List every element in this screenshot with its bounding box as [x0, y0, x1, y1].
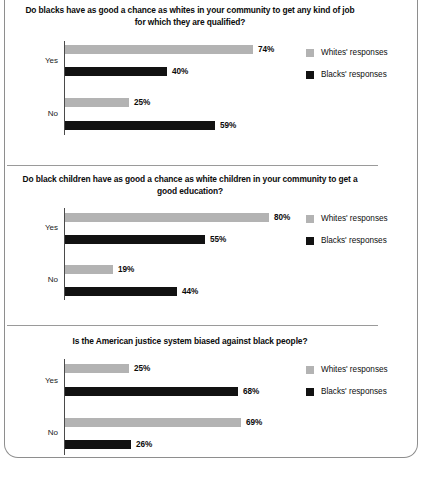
bar-value-no-whites-2: 19% — [118, 265, 134, 274]
section-divider-1 — [7, 165, 378, 166]
chart-section-1: Do blacks have as good a chance as white… — [0, 0, 428, 160]
legend-swatch-blacks-icon — [306, 388, 314, 396]
category-label-no-3: No — [18, 428, 58, 437]
bar-value-yes-blacks-2: 55% — [210, 235, 226, 244]
bar-yes-whites-2[interactable] — [65, 213, 269, 222]
category-label-yes-1: Yes — [18, 56, 58, 65]
legend-item-whites-2[interactable]: Whites' responses — [306, 214, 388, 223]
legend-2: Whites' responses Blacks' responses — [306, 214, 418, 254]
bar-value-no-whites-3: 69% — [246, 418, 262, 427]
legend-item-whites-1[interactable]: Whites' responses — [306, 48, 388, 57]
bar-value-no-blacks-1: 59% — [220, 121, 236, 130]
bar-yes-blacks-3[interactable] — [65, 387, 238, 396]
legend-item-blacks-1[interactable]: Blacks' responses — [306, 70, 387, 79]
plot-area-3: 25% 68% 69% 26% — [64, 359, 264, 455]
bar-value-yes-blacks-3: 68% — [243, 387, 259, 396]
legend-swatch-whites-icon — [306, 366, 314, 374]
bar-no-whites-3[interactable] — [65, 418, 241, 427]
legend-swatch-blacks-icon — [306, 71, 314, 79]
bar-yes-blacks-2[interactable] — [65, 235, 205, 244]
legend-label-whites: Whites' responses — [321, 48, 388, 57]
bar-no-blacks-1[interactable] — [65, 121, 215, 130]
category-label-yes-2: Yes — [18, 223, 58, 232]
legend-label-whites: Whites' responses — [321, 214, 388, 223]
chart-title-2: Do black children have as good a chance … — [20, 174, 360, 197]
category-label-yes-3: Yes — [18, 376, 58, 385]
legend-swatch-whites-icon — [306, 215, 314, 223]
chart-section-2: Do black children have as good a chance … — [0, 160, 428, 320]
legend-item-whites-3[interactable]: Whites' responses — [306, 365, 388, 374]
chart-title-1: Do blacks have as good a chance as white… — [20, 5, 360, 28]
bar-value-no-whites-1: 25% — [134, 98, 150, 107]
bar-yes-whites-3[interactable] — [65, 364, 129, 373]
bar-value-yes-blacks-1: 40% — [172, 67, 188, 76]
chart-section-3: Is the American justice system biased ag… — [0, 320, 428, 478]
plot-area-1: 74% 40% 25% 59% — [64, 41, 264, 135]
legend-label-blacks: Blacks' responses — [321, 70, 387, 79]
bar-no-whites-2[interactable] — [65, 265, 113, 274]
category-label-no-1: No — [18, 109, 58, 118]
plot-area-2: 80% 55% 19% 44% — [64, 208, 274, 300]
legend-swatch-whites-icon — [306, 49, 314, 57]
bar-value-yes-whites-2: 80% — [274, 213, 290, 222]
legend-3: Whites' responses Blacks' responses — [306, 365, 418, 405]
legend-label-blacks: Blacks' responses — [321, 387, 387, 396]
bar-no-whites-1[interactable] — [65, 98, 129, 107]
bar-no-blacks-2[interactable] — [65, 287, 177, 296]
bar-value-no-blacks-2: 44% — [182, 287, 198, 296]
bar-yes-whites-1[interactable] — [65, 45, 253, 54]
legend-item-blacks-2[interactable]: Blacks' responses — [306, 236, 387, 245]
bar-value-yes-whites-3: 25% — [134, 364, 150, 373]
bar-value-no-blacks-3: 26% — [136, 440, 152, 449]
category-label-no-2: No — [18, 275, 58, 284]
bar-no-blacks-3[interactable] — [65, 440, 131, 449]
bar-yes-blacks-1[interactable] — [65, 67, 167, 76]
legend-label-blacks: Blacks' responses — [321, 236, 387, 245]
bar-value-yes-whites-1: 74% — [258, 45, 274, 54]
legend-label-whites: Whites' responses — [321, 365, 388, 374]
legend-swatch-blacks-icon — [306, 237, 314, 245]
legend-item-blacks-3[interactable]: Blacks' responses — [306, 387, 387, 396]
section-divider-2 — [7, 325, 378, 326]
chart-title-3: Is the American justice system biased ag… — [20, 336, 360, 348]
legend-1: Whites' responses Blacks' responses — [306, 48, 418, 88]
